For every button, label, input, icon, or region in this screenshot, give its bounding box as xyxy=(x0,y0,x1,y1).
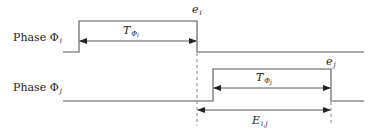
end-j-symbol: e xyxy=(326,55,333,68)
phase-i-label-prefix: Phase xyxy=(13,31,50,44)
duration-i-symbol: T xyxy=(123,24,130,37)
phase-j-symbol: Φ xyxy=(50,81,59,94)
phase-j-label: Phase Φj xyxy=(13,82,62,95)
phase-i-duration-label: TΦi xyxy=(123,25,139,38)
end-j-sub: j xyxy=(334,61,336,69)
interval-symbol: E xyxy=(252,114,260,127)
phase-j-label-prefix: Phase xyxy=(13,81,50,94)
duration-j-subsub: j xyxy=(270,78,272,85)
phase-j-end-label: ej xyxy=(326,56,336,69)
phase-j-waveform xyxy=(63,69,364,101)
interval-sub: i,j xyxy=(261,120,268,128)
phase-i-waveform xyxy=(63,21,364,52)
duration-j-symbol: T xyxy=(256,71,263,84)
interval-e-ij-label: Ei,j xyxy=(252,115,268,128)
phase-j-subscript: j xyxy=(60,87,62,95)
phase-i-label: Phase Φi xyxy=(13,32,62,45)
phase-j-duration-label: TΦj xyxy=(256,72,272,85)
timing-diagram: Phase Φi Phase Φj TΦi ei TΦj ej Ei,j xyxy=(0,0,377,130)
duration-i-subsub: i xyxy=(137,31,139,38)
timing-diagram-svg xyxy=(0,0,377,130)
phase-i-symbol: Φ xyxy=(50,31,59,44)
phase-i-subscript: i xyxy=(60,37,62,45)
end-i-symbol: e xyxy=(192,3,199,16)
phase-i-end-label: ei xyxy=(192,4,202,17)
end-i-sub: i xyxy=(200,9,202,17)
